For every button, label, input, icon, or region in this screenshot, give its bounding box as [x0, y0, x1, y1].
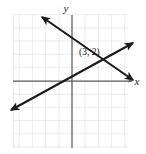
- intersection-point-label: (3, 2): [79, 47, 100, 58]
- coordinate-plane-svg: y x (3, 2): [0, 0, 146, 154]
- x-axis-label: x: [134, 75, 140, 87]
- graph-figure: y x (3, 2): [0, 0, 146, 154]
- y-axis-label: y: [63, 2, 69, 14]
